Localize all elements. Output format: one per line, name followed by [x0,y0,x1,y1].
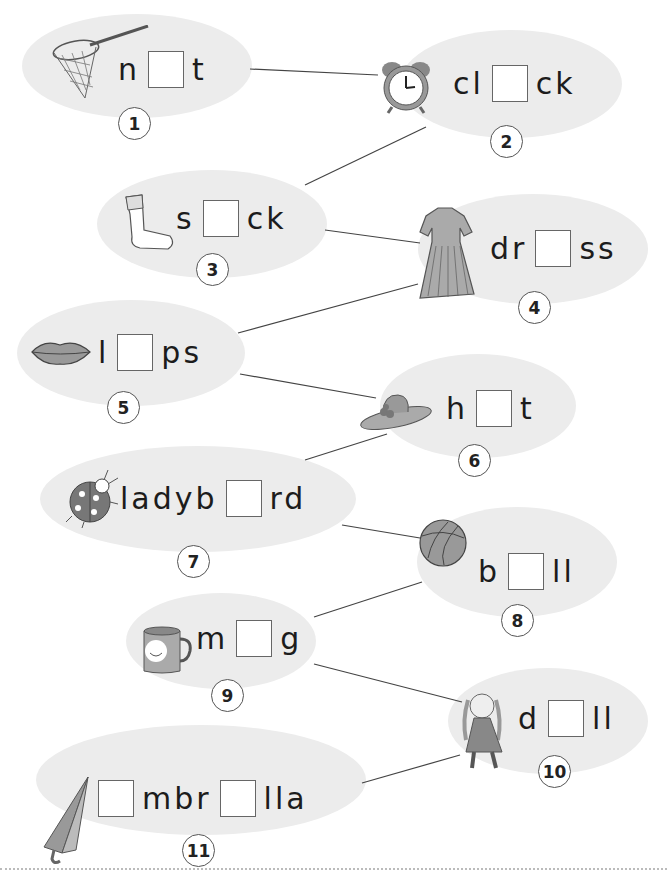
letters: g [280,621,302,656]
letters: ladyb [120,481,218,516]
word-9: m g [196,620,302,657]
mug-icon [140,625,196,675]
letters: cl [453,66,484,101]
line-2-3 [305,127,426,185]
word-1: n t [118,51,207,88]
word-2: cl ck [453,65,576,102]
letter-box[interactable] [535,230,571,267]
ball-icon [418,518,468,568]
letter-box[interactable] [203,200,239,237]
item-number: 8 [501,604,534,637]
letter-box[interactable] [98,780,134,817]
item-number: 1 [118,107,151,140]
item-number: 9 [211,679,244,712]
item-number: 7 [177,545,210,578]
letters: dr [490,231,527,266]
page-edge-divider [0,868,667,870]
item-number: 5 [107,391,140,424]
letters: n [118,52,140,87]
letters: lla [264,781,308,816]
letters: m [196,621,228,656]
line-8-9 [314,582,422,617]
line-1-2 [250,69,378,75]
line-9-10 [314,664,462,702]
dress-icon [416,206,476,301]
word-10: d ll [518,700,615,737]
line-4-5 [238,284,418,333]
item-number: 10 [538,755,571,788]
letter-box[interactable] [220,780,256,817]
word-8: b ll [478,553,575,590]
letter-box[interactable] [226,480,262,517]
item-number: 6 [458,444,491,477]
letters: ck [536,66,576,101]
letters: l [98,335,109,370]
lips-icon [30,337,92,367]
letter-box[interactable] [117,334,153,371]
letter-box[interactable] [236,620,272,657]
letters: d [518,701,540,736]
line-6-7 [305,434,387,460]
letter-box[interactable] [476,390,512,427]
word-4: dr ss [490,230,617,267]
letters: b [478,554,500,589]
letters: ll [592,701,615,736]
word-5: l ps [98,334,202,371]
letters: ps [161,335,202,370]
alarm-clock-icon [378,57,434,115]
letters: ck [247,201,287,236]
letters: t [520,391,535,426]
letters: s [176,201,195,236]
letters: t [192,52,207,87]
letter-box[interactable] [492,65,528,102]
connector-lines [0,0,667,875]
line-3-4 [325,230,420,243]
letter-box[interactable] [548,700,584,737]
letter-box[interactable] [508,553,544,590]
sock-icon [122,192,177,252]
letters: rd [270,481,307,516]
word-3: s ck [176,200,287,237]
item-number: 2 [490,125,523,158]
letters: mbr [142,781,212,816]
word-6: h t [446,390,535,427]
letter-box[interactable] [148,51,184,88]
line-10-11 [362,755,460,783]
line-7-8 [342,525,420,538]
letters: ss [579,231,616,266]
item-number: 11 [182,834,215,867]
line-5-6 [240,374,376,398]
item-number: 4 [518,291,551,324]
word-11: mbr lla [98,780,308,817]
hat-icon [358,390,436,430]
letters: h [446,391,468,426]
doll-icon [456,690,514,770]
word-7: ladyb rd [120,480,306,517]
item-number: 3 [196,253,229,286]
ladybird-icon [64,468,120,528]
letters: ll [552,554,575,589]
umbrella-icon [38,775,93,865]
